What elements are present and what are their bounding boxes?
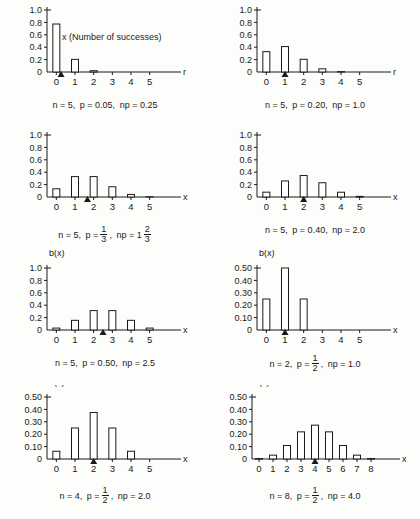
bar — [90, 177, 97, 197]
bar — [72, 428, 79, 459]
y-tick-label: 0.20 — [229, 429, 247, 439]
caption-n-4: n = 5, — [265, 225, 288, 235]
y-tick-label: 1.0 — [239, 130, 252, 140]
x-axis-label: r — [393, 67, 396, 77]
successes-annotation: x (Number of successes) — [62, 32, 162, 42]
bar — [340, 445, 347, 459]
bar — [356, 196, 363, 197]
y-tick-label: 0.50 — [234, 263, 252, 273]
fraction-p-3: 1 3 — [100, 225, 107, 244]
y-tick-label: 0.8 — [29, 143, 42, 153]
x-tick-label: 0 — [54, 334, 59, 345]
y-tick-label: 0.30 — [234, 288, 252, 298]
y-tick-label: 0 — [247, 192, 252, 202]
fraction-denominator: 2 — [312, 495, 319, 505]
y-tick-label: 0.8 — [239, 18, 252, 28]
caption-5: n = 5, p = 0.50, np = 2.5 — [0, 358, 210, 368]
y-tick-label: 0.2 — [239, 55, 252, 65]
bar — [128, 320, 135, 330]
x-axis-label: x — [393, 192, 398, 202]
caption-p-suffix-8: , — [321, 491, 324, 501]
x-tick-label: 3 — [110, 201, 115, 212]
bar — [300, 59, 307, 72]
caption-np-5: np = 2.5 — [122, 358, 155, 368]
y-tick-label: 1.0 — [239, 5, 252, 15]
y-tick-label: 0.50 — [24, 392, 42, 402]
bar — [53, 451, 60, 459]
x-tick-label: 2 — [91, 463, 96, 474]
x-tick-label: 0 — [256, 463, 261, 474]
plot-svg-7: b(x)0.500.400.300.200.100012345x — [0, 385, 210, 490]
y-tick-label: 1.0 — [29, 263, 42, 273]
plot-area-3: b(x)1.00.80.60.40.20012345x — [0, 125, 210, 225]
y-tick-label: 0 — [247, 325, 252, 335]
x-tick-label: 5 — [326, 463, 331, 474]
y-tick-label: 0.4 — [239, 42, 252, 52]
bar — [72, 177, 79, 197]
y-tick-label: 1.0 — [29, 130, 42, 140]
x-tick-label: 4 — [128, 201, 133, 212]
caption-p-prefix-3: p = — [86, 230, 99, 240]
x-tick-label: 0 — [54, 201, 59, 212]
bar — [326, 432, 333, 459]
x-tick-label: 3 — [110, 76, 115, 87]
y-tick-label: 0.10 — [24, 442, 42, 452]
caption-p-4: p = 0.40, — [292, 225, 327, 235]
caption-np-7: np = 2.0 — [118, 491, 151, 501]
x-tick-label: 0 — [54, 463, 59, 474]
x-tick-label: 1 — [282, 334, 287, 345]
bar — [312, 425, 319, 459]
y-tick-label: 0.40 — [24, 405, 42, 415]
fraction-p-8: 1 2 — [312, 486, 319, 505]
y-tick-label: 0.20 — [234, 300, 252, 310]
chart-panel-4: b(x)1.00.80.60.40.20012345x n = 5, p = 0… — [210, 125, 420, 250]
x-axis-label: x — [402, 454, 407, 464]
bar — [338, 192, 345, 197]
caption-np-prefix-3: np = 1 — [116, 230, 141, 240]
bar — [263, 52, 270, 72]
y-axis-label: b(x) — [259, 250, 275, 258]
x-tick-label: 4 — [338, 201, 343, 212]
y-tick-label: 1.0 — [29, 5, 42, 15]
x-axis-label: x — [393, 325, 398, 335]
x-tick-label: 4 — [338, 76, 343, 87]
y-tick-label: 0 — [242, 454, 247, 464]
chart-panel-6: b(x)0.500.400.300.200.100012345x n = 2, … — [210, 250, 420, 385]
y-tick-label: 0 — [37, 454, 42, 464]
bar — [128, 194, 135, 197]
bar — [53, 328, 60, 330]
caption-n-3: n = 5, — [58, 230, 81, 240]
y-tick-label: 0.6 — [29, 288, 42, 298]
y-tick-label: 0.10 — [229, 442, 247, 452]
bar — [146, 328, 153, 330]
x-tick-label: 8 — [368, 463, 373, 474]
caption-1: n = 5, p = 0.05, np = 0.25 — [0, 100, 210, 110]
x-tick-label: 5 — [147, 463, 152, 474]
x-axis-label: x — [183, 325, 188, 335]
caption-p-5: p = 0.50, — [82, 358, 117, 368]
fraction-numerator: 1 — [102, 486, 109, 495]
x-tick-label: 1 — [72, 334, 77, 345]
caption-p-prefix-6: p = — [297, 359, 310, 369]
y-axis-label: b(x) — [49, 385, 65, 387]
x-tick-label: 2 — [91, 201, 96, 212]
x-tick-label: 3 — [110, 334, 115, 345]
bar — [284, 445, 291, 459]
x-axis-label: r — [183, 67, 186, 77]
x-tick-label: 5 — [147, 334, 152, 345]
x-tick-label: 5 — [357, 76, 362, 87]
y-tick-label: 0.8 — [29, 18, 42, 28]
bar — [270, 455, 277, 459]
fraction-numerator: 1 — [100, 225, 107, 234]
y-tick-label: 0.4 — [239, 167, 252, 177]
caption-6: n = 2, p = 1 2 , np = 1.0 — [210, 354, 420, 373]
bar — [53, 24, 60, 72]
y-tick-label: 0 — [247, 67, 252, 77]
chart-panel-3: b(x)1.00.80.60.40.20012345x n = 5, p = 1… — [0, 125, 210, 250]
x-tick-label: 2 — [301, 201, 306, 212]
bar — [282, 268, 289, 330]
bar — [300, 299, 307, 330]
x-tick-label: 4 — [128, 463, 133, 474]
caption-p-1: p = 0.05, — [80, 100, 115, 110]
chart-panel-1: b(x)1.00.80.60.40.20012345r x (Number of… — [0, 0, 210, 125]
